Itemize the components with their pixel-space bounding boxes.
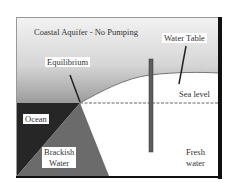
equilibrium-label: Equilibrium — [45, 57, 90, 67]
diagram-title: Coastal Aquifer - No Pumping — [34, 27, 138, 37]
brackish-line-2: Water — [44, 158, 74, 169]
fresh-line-2: water — [186, 158, 205, 169]
water-table-label: Water Table — [162, 33, 207, 43]
well-pipe — [149, 59, 153, 152]
frame-right-edge — [218, 17, 222, 179]
sea-level-label: Sea level — [177, 89, 212, 99]
brackish-line-1: Brackish — [44, 147, 74, 158]
brackish-water-label: Brackish Water — [42, 147, 76, 168]
fresh-line-1: Fresh — [186, 147, 205, 158]
frame-bottom-edge — [16, 176, 222, 178]
ocean-label: Ocean — [23, 114, 49, 124]
fresh-water-label: Fresh water — [186, 147, 205, 168]
